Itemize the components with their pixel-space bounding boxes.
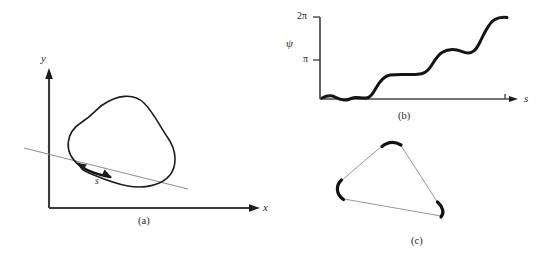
panel-b-caption: (b): [398, 111, 410, 122]
panel-c-polygon: [337, 143, 442, 217]
panel-b-x-axis-label: s: [524, 93, 528, 104]
polygon-edge-top-right: [400, 144, 438, 203]
panel-a-y-axis-label: y: [41, 53, 46, 64]
panel-a-x-axis-arrowhead: [249, 204, 260, 212]
polygon-corner-arc-right: [438, 202, 443, 217]
panel-b-x-axis-arrowhead: [509, 96, 518, 102]
panel-b-ytick-label-pi: π: [303, 54, 308, 64]
panel-c-caption: (c): [411, 236, 423, 247]
polygon-edge-bottom-right: [344, 199, 441, 216]
panel-a-y-axis-arrowhead: [45, 68, 53, 79]
panel-a-caption: (a): [138, 216, 150, 227]
arc-length-label: s: [95, 177, 99, 187]
polygon-edge-top-left: [341, 145, 383, 181]
polygon-corner-arc-top: [382, 143, 401, 147]
panel-b-ytick-label-2pi: 2π: [297, 11, 307, 21]
figure-canvas: [0, 0, 557, 258]
panel-b-y-axis-label: ψ: [286, 38, 293, 49]
polygon-corner-arc-left: [337, 180, 343, 200]
panel-a-x-axis-label: x: [263, 202, 268, 213]
closed-curve: [68, 96, 175, 187]
panel-a-axes: [45, 68, 260, 212]
psi-curve: [322, 17, 507, 100]
figure-root: y x s (a) 2π π ψ s (b) (c): [0, 0, 557, 258]
